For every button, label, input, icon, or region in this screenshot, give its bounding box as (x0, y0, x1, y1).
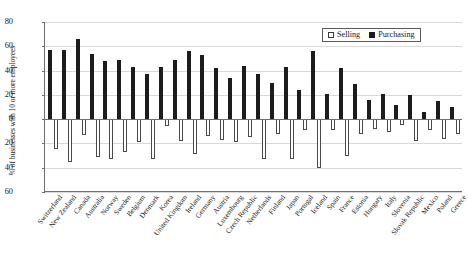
bar-purchasing (131, 67, 135, 119)
bar-purchasing (117, 60, 121, 120)
bar-selling (262, 119, 266, 159)
y-tick-label: 40 (0, 66, 13, 75)
bar-selling (54, 119, 58, 149)
bar-purchasing (311, 51, 315, 119)
bar-selling (234, 119, 238, 142)
legend-label-purchasing: Purchasing (378, 30, 414, 39)
chart-legend: Selling Purchasing (322, 28, 421, 42)
bar-selling (373, 119, 377, 129)
bar-purchasing (325, 94, 329, 120)
bar-purchasing (270, 83, 274, 119)
bar-group (212, 22, 226, 191)
bar-purchasing (353, 84, 357, 119)
bar-purchasing (159, 67, 163, 119)
bar-selling (303, 119, 307, 130)
bar-purchasing (284, 67, 288, 119)
bar-purchasing (200, 55, 204, 119)
bar-group (101, 22, 115, 191)
bar-group (337, 22, 351, 191)
y-tick-label: 60 (0, 187, 13, 196)
bar-selling (137, 119, 141, 142)
chart-figure: % of businesses with 10 or more employee… (0, 0, 468, 268)
bar-selling (317, 119, 321, 168)
bar-group (448, 22, 462, 191)
bar-selling (248, 119, 252, 137)
bar-selling (331, 119, 335, 130)
bar-selling (276, 119, 280, 134)
bar-purchasing (187, 51, 191, 119)
bar-purchasing (422, 112, 426, 119)
bar-purchasing (242, 66, 246, 119)
zero-axis-line (45, 119, 462, 120)
bar-selling (206, 119, 210, 136)
bar-purchasing (408, 95, 412, 119)
y-tick-label: 20 (0, 90, 13, 99)
bar-selling (442, 119, 446, 138)
bar-purchasing (256, 74, 260, 119)
x-axis-labels: SwitzerlandNew ZealandCanadaAustraliaNor… (44, 193, 462, 267)
bar-group (351, 22, 365, 191)
bar-group (226, 22, 240, 191)
bar-purchasing (436, 101, 440, 119)
bar-purchasing (48, 50, 52, 119)
bar-series-container (46, 22, 462, 191)
bar-group (323, 22, 337, 191)
bar-purchasing (103, 61, 107, 119)
y-tick-label: 0 (0, 114, 13, 123)
bar-group (46, 22, 60, 191)
y-tick-label: 20 (0, 138, 13, 147)
bar-selling (179, 119, 183, 141)
y-tick-label: 60 (0, 41, 13, 50)
bar-selling (220, 119, 224, 140)
bar-group (129, 22, 143, 191)
bar-purchasing (214, 68, 218, 119)
bar-purchasing (228, 78, 232, 119)
bar-selling (82, 119, 86, 135)
bar-selling (68, 119, 72, 162)
bar-group (365, 22, 379, 191)
bar-group (157, 22, 171, 191)
bar-purchasing (339, 68, 343, 119)
bar-group (392, 22, 406, 191)
y-tick-mark (42, 168, 45, 169)
bar-selling (165, 119, 169, 126)
bar-group (420, 22, 434, 191)
bar-purchasing (381, 94, 385, 120)
bar-group (74, 22, 88, 191)
bar-group (268, 22, 282, 191)
bar-purchasing (62, 50, 66, 119)
bar-selling (456, 119, 460, 134)
bar-group (379, 22, 393, 191)
bar-group (254, 22, 268, 191)
bar-purchasing (145, 74, 149, 119)
bar-selling (414, 119, 418, 141)
y-tick-mark (42, 46, 45, 47)
bar-purchasing (297, 90, 301, 119)
y-tick-label: 40 (0, 163, 13, 172)
bar-selling (151, 119, 155, 159)
legend-label-selling: Selling (337, 30, 360, 39)
bar-selling (345, 119, 349, 155)
legend-item-selling: Selling (328, 30, 360, 39)
bar-selling (109, 119, 113, 159)
bar-group (309, 22, 323, 191)
bar-selling (193, 119, 197, 154)
bar-group (198, 22, 212, 191)
legend-swatch-selling-icon (328, 32, 334, 38)
bar-group (434, 22, 448, 191)
bar-group (88, 22, 102, 191)
bar-selling (96, 119, 100, 157)
bar-purchasing (450, 107, 454, 119)
y-tick-mark (42, 95, 45, 96)
bar-purchasing (367, 100, 371, 119)
y-tick-label: 80 (0, 17, 13, 26)
legend-swatch-purchasing-icon (369, 32, 375, 38)
bar-selling (359, 119, 363, 134)
bar-group (60, 22, 74, 191)
legend-item-purchasing: Purchasing (369, 30, 414, 39)
bar-group (240, 22, 254, 191)
bar-purchasing (394, 105, 398, 120)
bar-group (406, 22, 420, 191)
bar-selling (387, 119, 391, 132)
bar-group (171, 22, 185, 191)
